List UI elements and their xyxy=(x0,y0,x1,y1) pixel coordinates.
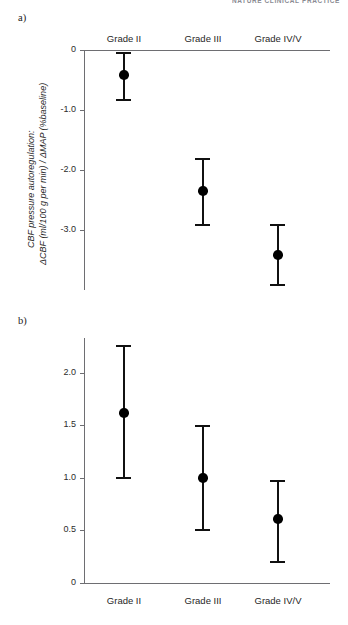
panel-a-y-axis xyxy=(84,50,85,290)
panel-b-category-grade-ii: Grade II xyxy=(89,595,159,606)
panel-a-datapoint-grade-iii xyxy=(198,186,208,196)
panel-b-y-axis xyxy=(84,338,85,584)
panel-a-errorbar-cap-top-grade-iii xyxy=(195,158,210,160)
panel-a-errorbar-cap-bottom-grade-ivv xyxy=(270,284,285,286)
panel-a-category-grade-ivv: Grade IV/V xyxy=(243,33,313,44)
panel-a-errorbar-cap-bottom-grade-ii xyxy=(116,99,131,101)
panel-b-errorbar-cap-top-grade-ivv xyxy=(270,480,285,482)
panel-b-category-grade-iii: Grade III xyxy=(168,595,238,606)
panel-a-ticklabel-minus3: -3.0 xyxy=(36,224,76,234)
panel-b-tick-0p5 xyxy=(80,530,84,531)
panel-b-tick-2 xyxy=(80,373,84,374)
panel-b-errorbar-cap-top-grade-ii xyxy=(116,345,131,347)
panel-b-category-grade-ivv: Grade IV/V xyxy=(243,595,313,606)
panel-b: b) CO₂ reactivity (ml/100 g per min per … xyxy=(0,300,348,625)
panel-a-ticklabel-minus1: -1.0 xyxy=(36,104,76,114)
panel-a-datapoint-grade-ii xyxy=(119,70,129,80)
panel-b-ticklabel-0p5: 0.5 xyxy=(36,524,76,534)
panel-b-ticklabel-2: 2.0 xyxy=(36,367,76,377)
panel-a-errorbar-cap-top-grade-ii xyxy=(116,52,131,54)
panel-a-letter: a) xyxy=(18,12,26,23)
panel-b-errorbar-cap-bottom-grade-iii xyxy=(195,529,210,531)
panel-a-ticklabel-minus2: -2.0 xyxy=(36,164,76,174)
panel-b-tick-1 xyxy=(80,478,84,479)
panel-a-tick-minus3 xyxy=(80,230,84,231)
panel-b-ticklabel-0: 0 xyxy=(36,577,76,587)
panel-a-y-axis-title-line1: CBF pressure autoregulation: xyxy=(26,131,36,248)
panel-b-ticklabel-1p5: 1.5 xyxy=(36,419,76,429)
panel-b-datapoint-grade-ivv xyxy=(273,514,283,524)
panel-a: a) CBF pressure autoregulation: ΔCBF (ml… xyxy=(0,0,348,300)
panel-b-datapoint-grade-ii xyxy=(119,408,129,418)
panel-a-x-axis xyxy=(84,50,330,51)
panel-b-errorbar-cap-bottom-grade-ivv xyxy=(270,561,285,563)
panel-b-errorbar-cap-top-grade-iii xyxy=(195,425,210,427)
panel-b-tick-0 xyxy=(80,583,84,584)
panel-b-errorbar-cap-bottom-grade-ii xyxy=(116,477,131,479)
panel-a-category-grade-iii: Grade III xyxy=(168,33,238,44)
panel-a-tick-minus2 xyxy=(80,170,84,171)
panel-b-tick-1p5 xyxy=(80,425,84,426)
panel-a-tick-0 xyxy=(80,50,84,51)
panel-a-category-grade-ii: Grade II xyxy=(89,33,159,44)
panel-b-letter: b) xyxy=(18,315,27,326)
panel-b-ticklabel-1: 1.0 xyxy=(36,472,76,482)
panel-a-errorbar-cap-top-grade-ivv xyxy=(270,224,285,226)
panel-a-ticklabel-0: 0 xyxy=(36,44,76,54)
panel-b-x-axis xyxy=(84,583,330,584)
panel-a-errorbar-cap-bottom-grade-iii xyxy=(195,224,210,226)
panel-b-datapoint-grade-iii xyxy=(198,473,208,483)
panel-a-datapoint-grade-ivv xyxy=(273,250,283,260)
panel-a-tick-minus1 xyxy=(80,110,84,111)
